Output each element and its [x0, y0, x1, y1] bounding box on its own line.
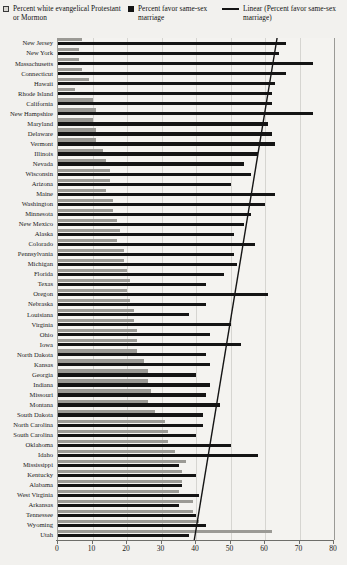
axis-right — [334, 38, 335, 540]
y-axis-label: Illinois — [34, 150, 53, 157]
y-axis-label: Georgia — [32, 371, 53, 378]
y-axis-label: Delaware — [28, 130, 53, 137]
x-axis-tick-mark — [195, 540, 196, 544]
legend-label-evangelical: Percent white evangelical Protestant or … — [13, 4, 121, 23]
y-axis-label: Alabama — [29, 481, 53, 488]
y-axis-label: South Dakota — [17, 411, 53, 418]
y-axis-label: New Jersey — [22, 39, 53, 46]
x-axis-tick-mark — [264, 540, 265, 544]
legend-label-favor: Percent favor same-sex marriage — [138, 4, 214, 23]
x-axis-tick-mark — [126, 540, 127, 544]
y-axis-label: Rhode Island — [18, 90, 53, 97]
y-axis-label: Missouri — [30, 391, 53, 398]
chart-legend: Percent white evangelical Protestant or … — [0, 0, 347, 36]
y-axis-label: Washington — [22, 200, 53, 207]
x-axis-tick-label: 70 — [295, 544, 303, 553]
y-axis-label: Hawaii — [34, 80, 53, 87]
y-axis-label: Ohio — [40, 331, 53, 338]
y-axis-label: Iowa — [40, 341, 53, 348]
y-axis-label: Wisconsin — [25, 170, 53, 177]
x-axis-tick-label: 30 — [157, 544, 165, 553]
x-axis-tick-label: 50 — [226, 544, 234, 553]
y-axis-label: Louisiana — [27, 311, 53, 318]
y-axis-label: Connecticut — [21, 70, 53, 77]
y-axis-label: California — [26, 100, 53, 107]
y-axis-labels: New JerseyNew YorkMassachusettsConnectic… — [0, 38, 55, 540]
y-axis-label: Kansas — [34, 361, 53, 368]
y-axis-label: New Mexico — [19, 220, 53, 227]
trendline — [58, 38, 334, 540]
x-axis-tick-mark — [299, 540, 300, 544]
open-square-icon — [3, 6, 9, 12]
x-axis-tick-label: 40 — [191, 544, 199, 553]
legend-item-evangelical: Percent white evangelical Protestant or … — [3, 4, 121, 23]
y-axis-label: Vermont — [30, 140, 53, 147]
y-axis-label: North Dakota — [17, 351, 53, 358]
y-axis-label: Utah — [40, 531, 53, 538]
y-axis-label: Mississippi — [23, 461, 53, 468]
y-axis-label: Maryland — [27, 120, 53, 127]
y-axis-label: Idaho — [38, 451, 53, 458]
line-swatch-icon — [222, 8, 239, 10]
y-axis-label: South Carolina — [13, 431, 53, 438]
y-axis-label: Colorado — [28, 240, 53, 247]
y-axis-label: Nebraska — [28, 300, 53, 307]
x-axis-tick-mark — [230, 540, 231, 544]
legend-item-favor: Percent favor same-sex marriage — [128, 4, 214, 23]
y-axis-label: Kentucky — [27, 471, 53, 478]
y-axis-label: Oregon — [33, 290, 53, 297]
y-axis-label: Alaska — [35, 230, 53, 237]
y-axis-label: Tennessee — [26, 511, 53, 518]
y-axis-label: Virginia — [32, 321, 53, 328]
x-axis-tick-mark — [333, 540, 334, 544]
y-axis-label: Montana — [30, 401, 53, 408]
x-axis-tick-label: 10 — [88, 544, 96, 553]
y-axis-label: Maine — [36, 190, 53, 197]
y-axis-label: Florida — [34, 270, 53, 277]
legend-item-trendline: Linear (Percent favor same-sex marriage) — [222, 4, 344, 23]
y-axis-label: Oklahoma — [26, 441, 53, 448]
y-axis-label: West Virginia — [17, 491, 53, 498]
y-axis-label: Indiana — [33, 381, 53, 388]
x-axis-tick-label: 60 — [260, 544, 268, 553]
y-axis-label: North Carolina — [13, 421, 53, 428]
y-axis-label: Massachusetts — [15, 60, 53, 67]
x-axis-tick-label: 80 — [329, 544, 337, 553]
y-axis-label: Arkansas — [28, 501, 53, 508]
y-axis-label: Minnesota — [25, 210, 53, 217]
y-axis-label: Nevada — [33, 160, 53, 167]
x-axis-tick-label: 20 — [122, 544, 130, 553]
legend-label-trendline: Linear (Percent favor same-sex marriage) — [243, 4, 344, 23]
y-axis-label: Michigan — [28, 260, 53, 267]
x-axis-tick-mark — [57, 540, 58, 544]
y-axis-label: New Hampshire — [10, 110, 53, 117]
plot-area — [57, 38, 334, 540]
y-axis-label: New York — [26, 49, 53, 56]
y-axis-label: Texas — [38, 280, 53, 287]
y-axis-label: Pennsylvania — [18, 250, 53, 257]
chart-root: Percent white evangelical Protestant or … — [0, 0, 347, 565]
filled-square-icon — [128, 6, 134, 12]
y-axis-label: Wyoming — [27, 521, 53, 528]
y-axis-label: Arizona — [32, 180, 53, 187]
x-axis-labels: 01020304050607080 — [0, 544, 347, 558]
x-axis-tick-mark — [92, 540, 93, 544]
x-axis-tick-label: 0 — [55, 544, 59, 553]
x-axis-tick-mark — [161, 540, 162, 544]
